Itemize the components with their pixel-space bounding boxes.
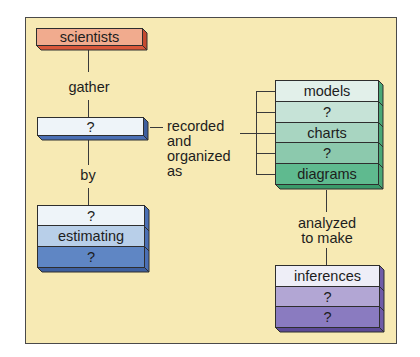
connector-box-by [88,140,89,165]
node-row: ? [276,102,378,123]
node-gathered: ? [37,117,149,142]
link-label-recorded-line-2: and [167,134,247,149]
connector-by-methods [88,188,89,205]
node-row: ? [38,206,144,226]
node-conclusions: inferences ? ? [275,265,385,333]
link-label-analyzed-line-2: to make [286,231,368,246]
link-label-by: by [70,168,106,183]
box-face: ? [37,117,144,136]
node-label: ? [38,118,143,135]
link-label-analyzed-line-1: analyzed [286,216,368,231]
link-label-recorded-line-3: organized [167,149,247,164]
connector-box-recorded [150,127,163,128]
connector-scientists-gather [88,50,89,72]
box-face: inferences ? ? [275,265,380,328]
bracket-tick-5 [256,174,275,175]
box-face: scientists [36,28,143,46]
link-label-recorded: recorded and organized as [167,119,247,179]
box-face: ? estimating ? [37,205,145,268]
link-label-recorded-line-4: as [167,164,247,179]
connector-gather-box [88,100,89,117]
bracket-tick-1 [256,91,275,92]
node-row: ? [276,143,378,164]
node-row: inferences [276,266,379,287]
node-label: scientists [37,29,142,45]
bracket-tick-2 [256,112,275,113]
node-row: charts [276,123,378,143]
node-row: ? [276,287,379,307]
node-row: models [276,81,378,102]
node-scientists: scientists [36,28,148,52]
connector-analyzed-inferences [326,248,327,265]
node-representations: models ? charts ? diagrams [275,80,384,190]
node-row: ? [38,247,144,267]
connector-recorded-bracket [240,133,256,134]
link-label-analyzed: analyzed to make [286,216,368,246]
link-label-gather: gather [58,80,120,95]
bracket-tick-4 [256,153,275,154]
box-face: models ? charts ? diagrams [275,80,379,185]
node-row: ? [276,307,379,327]
node-row: diagrams [276,164,378,184]
link-label-recorded-line-1: recorded [167,119,247,134]
connector-representations-analyzed [326,190,327,212]
bracket-tick-3 [256,133,275,134]
node-methods: ? estimating ? [37,205,150,273]
node-row: estimating [38,226,144,247]
